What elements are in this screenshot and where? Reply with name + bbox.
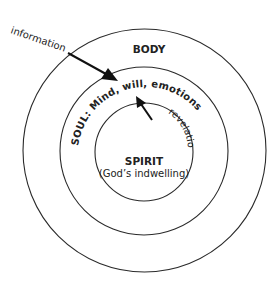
revelation-arrow-shaft [141, 104, 152, 120]
information-arrow-shaft [68, 53, 106, 74]
revelation-arrowhead-icon [136, 96, 146, 108]
body-ring [23, 29, 266, 272]
revelation-arrow [136, 96, 152, 120]
diagram-canvas: BODY SOUL: Mind, will, emotions SPIRIT (… [0, 0, 280, 287]
spirit-label: SPIRIT [125, 155, 164, 167]
revelation-label: revelation [0, 0, 197, 148]
body-label: BODY [133, 43, 166, 55]
soul-ring [60, 67, 228, 235]
information-arrow [68, 53, 118, 81]
information-arrowhead-icon [101, 68, 118, 81]
body-soul-spirit-diagram: BODY SOUL: Mind, will, emotions SPIRIT (… [0, 0, 280, 287]
spirit-sublabel: (God’s indwelling) [99, 168, 189, 179]
information-label: information [9, 24, 67, 53]
revelation-label-path: revelation [0, 0, 197, 148]
